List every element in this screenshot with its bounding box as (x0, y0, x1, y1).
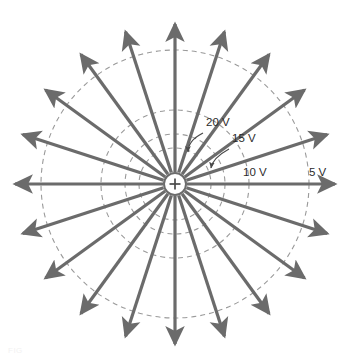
equipotential-label-10v: 10 V (243, 166, 267, 178)
equipotential-label-5v: 5 V (309, 166, 327, 178)
electric-field-diagram: 20 V 15 V 10 V 5 V (0, 0, 346, 357)
figure-container: 20 V 15 V 10 V 5 V FIG (0, 0, 346, 357)
caption-ghost-artifact: FIG (8, 346, 23, 355)
point-charge-marker (164, 173, 186, 195)
equipotential-label-15v: 15 V (232, 132, 256, 144)
equipotential-label-20v: 20 V (206, 116, 230, 128)
